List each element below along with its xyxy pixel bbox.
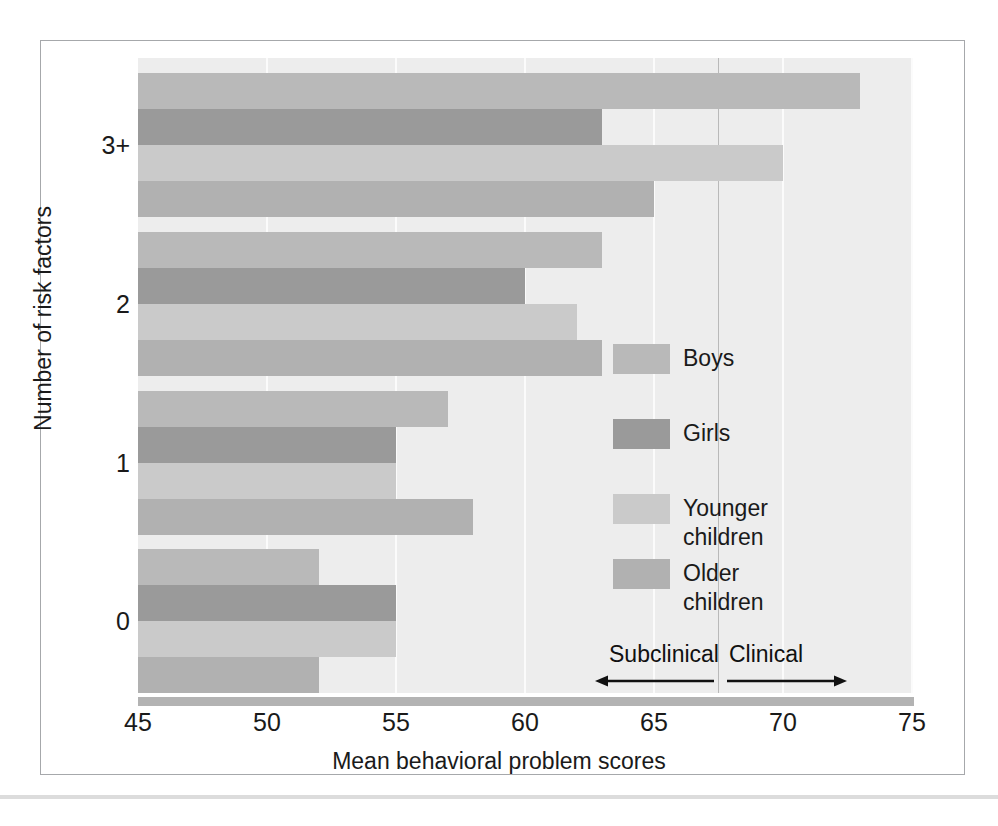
bar-older-children-risk-1: [138, 499, 473, 535]
x-tick-label-70: 70: [769, 708, 797, 737]
figure-root: 45505560657075 Mean behavioral problem s…: [0, 0, 998, 826]
legend-label: Boys: [683, 344, 734, 373]
legend-swatch-boys: [613, 344, 670, 374]
clinical-right-arrow-icon: [727, 674, 847, 688]
bar-boys-risk-3plus: [138, 73, 860, 109]
bar-girls-risk-3plus: [138, 109, 602, 145]
bar-younger-children-risk-3plus: [138, 145, 783, 181]
x-tick-label-60: 60: [511, 708, 539, 737]
gridline-75: [911, 58, 913, 693]
bar-younger-children-risk-0: [138, 621, 396, 657]
subclinical-annotation-label: Subclinical: [609, 641, 719, 668]
y-tick-label-1: 1: [70, 448, 130, 477]
clinical-annotation-label: Clinical: [729, 641, 803, 668]
x-tick-label-65: 65: [640, 708, 668, 737]
bar-older-children-risk-2: [138, 340, 602, 376]
plot-area: [138, 58, 912, 693]
bar-younger-children-risk-1: [138, 463, 396, 499]
legend-swatch-younger-children: [613, 494, 670, 524]
page-bottom-rule: [0, 795, 998, 799]
bar-older-children-risk-0: [138, 657, 319, 693]
x-axis-title: Mean behavioral problem scores: [0, 748, 998, 775]
bar-boys-risk-2: [138, 232, 602, 268]
legend-label: Girls: [683, 419, 730, 448]
bar-older-children-risk-3plus: [138, 181, 654, 217]
legend-label: Older children: [683, 559, 764, 617]
bar-girls-risk-1: [138, 427, 396, 463]
x-tick-label-55: 55: [382, 708, 410, 737]
y-axis-title: Number of risk factors: [30, 84, 57, 554]
legend-item-boys: Boys: [613, 344, 734, 374]
bar-boys-risk-1: [138, 391, 448, 427]
subclinical-left-arrow-icon: [595, 674, 714, 688]
y-tick-label-3plus: 3+: [70, 131, 130, 160]
legend-label: Younger children: [683, 494, 768, 552]
legend-item-girls: Girls: [613, 419, 730, 449]
legend-item-older-children: Older children: [613, 559, 764, 617]
legend-swatch-older-children: [613, 559, 670, 589]
y-tick-label-2: 2: [70, 289, 130, 318]
x-tick-label-45: 45: [124, 708, 152, 737]
y-tick-label-0: 0: [70, 607, 130, 636]
x-tick-label-75: 75: [898, 708, 926, 737]
bar-boys-risk-0: [138, 549, 319, 585]
bar-younger-children-risk-2: [138, 304, 577, 340]
legend-swatch-girls: [613, 419, 670, 449]
x-tick-label-50: 50: [253, 708, 281, 737]
x-axis-line: [138, 697, 914, 706]
y-axis-ticks: 0123+: [55, 58, 130, 693]
bar-girls-risk-2: [138, 268, 525, 304]
bar-girls-risk-0: [138, 585, 396, 621]
legend-item-younger-children: Younger children: [613, 494, 768, 552]
